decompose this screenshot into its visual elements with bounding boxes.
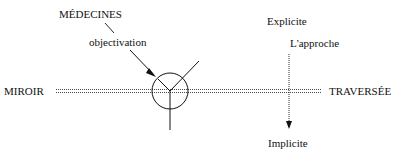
diagram-canvas: MIROIR TRAVERSÉE Explicite L'approche Im… bbox=[0, 0, 395, 158]
label-explicite: Explicite bbox=[267, 15, 307, 27]
label-implicite: Implicite bbox=[268, 137, 308, 149]
label-objectivation: objectivation bbox=[89, 36, 147, 48]
medecines-leader-line bbox=[105, 23, 114, 33]
label-approche: L'approche bbox=[290, 37, 339, 49]
label-miroir: MIROIR bbox=[4, 85, 44, 97]
down-arrow-icon bbox=[286, 121, 292, 129]
position-node bbox=[152, 61, 199, 130]
label-traversee: TRAVERSÉE bbox=[329, 85, 391, 97]
objectivation-arrowhead-icon bbox=[146, 68, 156, 77]
horizontal-axis bbox=[56, 90, 322, 93]
label-medecines: MÉDECINES bbox=[59, 8, 122, 20]
vertical-axis bbox=[286, 54, 292, 129]
node-branch-right bbox=[170, 61, 199, 91]
